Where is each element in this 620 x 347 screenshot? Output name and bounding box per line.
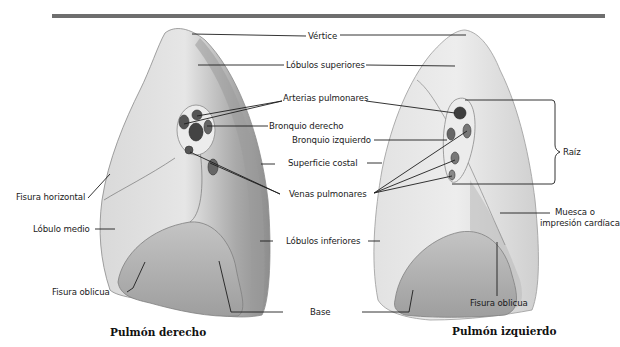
label-arterias-pulmonares: Arterias pulmonares bbox=[283, 93, 368, 103]
label-raiz: Raíz bbox=[563, 147, 581, 157]
label-vertice: Vértice bbox=[308, 31, 337, 41]
label-lobulos-inferiores: Lóbulos inferiores bbox=[286, 236, 360, 246]
label-fisura-oblicua-left: Fisura oblicua bbox=[470, 298, 528, 308]
label-superficie-costal: Superficie costal bbox=[288, 158, 358, 168]
title-left-lung: Pulmón izquierdo bbox=[452, 325, 556, 337]
label-muesca-line1: Muesca o bbox=[555, 207, 595, 217]
label-lobulos-superiores: Lóbulos superiores bbox=[286, 60, 365, 70]
label-lobulo-medio: Lóbulo medio bbox=[33, 224, 90, 234]
label-muesca-line2: impresión cardíaca bbox=[540, 218, 620, 228]
label-fisura-oblicua-right: Fisura oblicua bbox=[52, 287, 110, 297]
label-venas-pulmonares: Venas pulmonares bbox=[289, 189, 367, 199]
label-fisura-horizontal: Fisura horizontal bbox=[16, 192, 85, 202]
label-bronquio-derecho: Bronquio derecho bbox=[269, 121, 343, 131]
left-lung bbox=[374, 30, 539, 320]
label-bronquio-izquierdo: Bronquio izquierdo bbox=[292, 135, 371, 145]
label-base: Base bbox=[310, 307, 331, 317]
title-right-lung: Pulmón derecho bbox=[110, 326, 206, 338]
right-lung bbox=[100, 29, 270, 317]
